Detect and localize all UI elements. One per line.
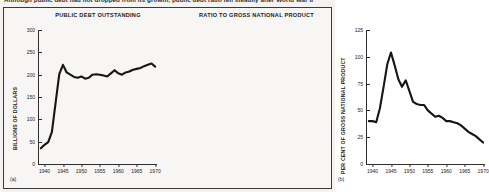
- panel-b-y-tick: 25: [357, 134, 367, 140]
- panel-b-title: RATIO TO GROSS NATIONAL PRODUCT: [168, 12, 339, 18]
- panel-a-y-tick: 250: [27, 49, 39, 55]
- panel-b-y-axis-title: PER CENT OF GROSS NATIONAL PRODUCT: [340, 57, 346, 174]
- panel-b-line-series: [367, 30, 485, 164]
- panel-b-x-tick: 1940: [367, 164, 378, 174]
- panel-a-y-tick: 50: [29, 139, 39, 145]
- figure-caption: Although public debt had not dropped fro…: [4, 0, 313, 3]
- panel-a-letter: (a): [10, 176, 16, 182]
- panel-b-x-tick: 1945: [385, 164, 396, 174]
- panel-b-letter: (b): [338, 176, 344, 182]
- panel-ratio-to-gnp: RATIO TO GROSS NATIONAL PRODUCT PER CENT…: [168, 8, 333, 190]
- panel-a-x-tick: 1940: [39, 164, 50, 174]
- panel-a-title: PUBLIC DEBT OUTSTANDING: [4, 12, 180, 18]
- panel-b-y-tick: 50: [357, 107, 367, 113]
- panel-a-x-tick: 1945: [57, 164, 68, 174]
- panel-a-x-tick: 1960: [113, 164, 124, 174]
- panel-a-x-tick: 1965: [131, 164, 142, 174]
- panel-b-y-tick: 125: [355, 27, 367, 33]
- panel-a-y-tick: 300: [27, 27, 39, 33]
- panel-b-plot-area: 0255075100125194019451950195519601965197…: [366, 30, 485, 165]
- panel-b-x-tick: 1960: [441, 164, 452, 174]
- figure-caption-strip: Although public debt had not dropped fro…: [0, 0, 335, 6]
- panel-a-y-tick: 0: [32, 161, 39, 167]
- panel-b-x-tick: 1965: [459, 164, 470, 174]
- panel-a-x-tick: 1950: [76, 164, 87, 174]
- figure-plate: PUBLIC DEBT OUTSTANDING BILLIONS OF DOLL…: [3, 7, 332, 189]
- panel-a-x-tick: 1955: [94, 164, 105, 174]
- panel-public-debt-outstanding: PUBLIC DEBT OUTSTANDING BILLIONS OF DOLL…: [4, 8, 168, 190]
- panel-a-y-tick: 200: [27, 72, 39, 78]
- panel-a-line-series: [39, 30, 157, 164]
- panel-a-y-tick: 150: [27, 94, 39, 100]
- panel-b-x-tick: 1955: [422, 164, 433, 174]
- panel-a-y-tick: 100: [27, 116, 39, 122]
- panel-b-x-tick: 1970: [478, 164, 489, 174]
- panel-b-y-tick: 100: [355, 54, 367, 60]
- panel-a-y-axis-title: BILLIONS OF DOLLARS: [12, 87, 18, 150]
- panel-a-plot-area: 0501001502002503001940194519501955196019…: [38, 30, 157, 165]
- panel-b-x-tick: 1950: [404, 164, 415, 174]
- panel-a-x-tick: 1970: [150, 164, 161, 174]
- panel-b-y-tick: 0: [360, 161, 367, 167]
- panel-b-y-tick: 75: [357, 81, 367, 87]
